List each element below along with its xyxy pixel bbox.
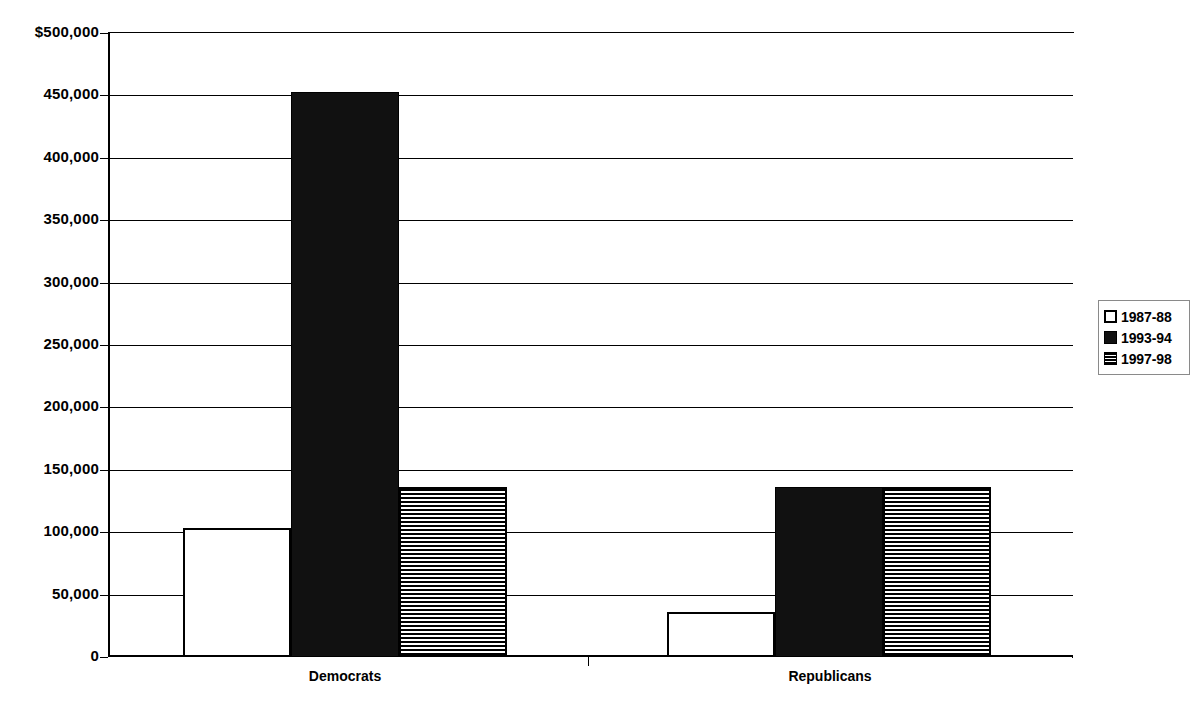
- bar-democrats-1987-88: [183, 528, 291, 657]
- legend-item-label: 1987-88: [1121, 309, 1172, 325]
- legend: 1987-881993-941997-98: [1098, 300, 1190, 375]
- gridline: [108, 283, 1073, 284]
- gridline: [108, 220, 1073, 221]
- x-axis-category-label-democrats: Democrats: [255, 668, 435, 684]
- x-axis-category-label-republicans: Republicans: [740, 668, 920, 684]
- legend-swatch-striped-icon: [1104, 352, 1117, 365]
- y-axis-tick-label: 150,000: [43, 460, 99, 477]
- legend-swatch-solid-icon: [1104, 331, 1117, 344]
- y-axis-tick-label: 250,000: [43, 335, 99, 352]
- bar-chart-figure: $500,000450,000400,000350,000300,000250,…: [0, 0, 1203, 705]
- bar-republicans-1993-94: [775, 487, 883, 657]
- y-axis-tick-label: 300,000: [43, 273, 99, 290]
- y-axis-tick-label: 450,000: [43, 85, 99, 102]
- gridline: [108, 158, 1073, 159]
- y-axis-tick-label: 50,000: [52, 585, 99, 602]
- y-axis-tick-label: 400,000: [43, 148, 99, 165]
- y-axis-tick-mark: [100, 283, 108, 284]
- legend-item-label: 1997-98: [1121, 351, 1172, 367]
- y-axis-tick-mark: [100, 158, 108, 159]
- gridline: [108, 407, 1073, 408]
- legend-item-1993-94[interactable]: 1993-94: [1104, 327, 1185, 348]
- gridline: [108, 345, 1073, 346]
- legend-item-1997-98[interactable]: 1997-98: [1104, 348, 1185, 369]
- y-axis-tick-mark: [100, 220, 108, 221]
- y-axis-tick-label: 100,000: [43, 522, 99, 539]
- gridline: [108, 95, 1073, 96]
- y-axis-tick-mark: [100, 532, 108, 533]
- y-axis-tick-label: 0: [90, 647, 99, 664]
- y-axis-tick-mark: [100, 470, 108, 471]
- y-axis-tick-label: 200,000: [43, 397, 99, 414]
- y-axis-tick-mark: [100, 595, 108, 596]
- bar-democrats-1997-98: [399, 487, 507, 657]
- y-axis-tick-label: $500,000: [35, 23, 99, 40]
- bar-republicans-1997-98: [883, 487, 991, 657]
- bar-democrats-1993-94: [291, 92, 399, 657]
- gridline: [108, 470, 1073, 471]
- legend-item-1987-88[interactable]: 1987-88: [1104, 306, 1185, 327]
- y-axis-tick-mark: [100, 657, 108, 658]
- y-axis-tick-mark: [100, 407, 108, 408]
- x-axis-tick-mark: [588, 657, 589, 666]
- legend-item-label: 1993-94: [1121, 330, 1172, 346]
- y-axis-tick-mark: [100, 345, 108, 346]
- y-axis-tick-label: 350,000: [43, 210, 99, 227]
- bar-republicans-1987-88: [667, 612, 775, 657]
- y-axis-tick-mark: [100, 95, 108, 96]
- y-axis-tick-mark: [100, 33, 108, 34]
- legend-swatch-open-icon: [1104, 310, 1117, 323]
